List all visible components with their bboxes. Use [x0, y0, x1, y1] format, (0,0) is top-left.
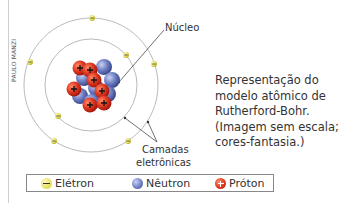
image-credit: PAULO MANZI	[10, 39, 17, 82]
caption-line: cores-fantasia.)	[215, 135, 339, 151]
legend-item-electron: Elétron	[41, 177, 94, 190]
legend-label: Elétron	[55, 177, 94, 190]
shells-label-line1: Camadas	[142, 144, 189, 155]
neutron-icon	[132, 178, 143, 189]
caption-line: Rutherford-Bohr.	[215, 104, 339, 120]
electron-icon	[41, 178, 52, 189]
nucleus	[67, 59, 121, 113]
nucleus-label: Núcleo	[165, 22, 199, 33]
legend-item-proton: Próton	[215, 177, 264, 190]
legend-label: Próton	[229, 177, 264, 190]
caption-line: Representação do	[215, 73, 339, 89]
legend-item-neutron: Nêutron	[132, 177, 190, 190]
proton-icon	[215, 178, 226, 189]
legend-label: Nêutron	[146, 177, 190, 190]
caption-line: modelo atômico de	[215, 89, 339, 105]
caption-line: (Imagem sem escala;	[215, 120, 339, 136]
caption: Representação do modelo atômico de Ruthe…	[215, 73, 339, 151]
shells-label-line2: eletrônicas	[136, 157, 191, 168]
legend: Elétron Nêutron Próton	[26, 174, 274, 192]
